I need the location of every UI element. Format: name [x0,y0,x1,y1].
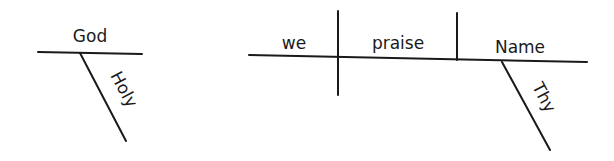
word-thy: Thy [528,78,561,116]
word-name: Name [495,37,545,57]
word-we: we [282,33,306,53]
sentence-diagram-canvas: God Holy we praise Name Thy [0,0,614,161]
word-holy: Holy [107,68,142,111]
word-praise: praise [372,33,424,53]
diagram-we-praise-name: we praise Name Thy [249,11,587,150]
diagram-god-holy: God Holy [38,26,142,141]
baseline-god [38,52,142,54]
word-god: God [73,26,107,46]
